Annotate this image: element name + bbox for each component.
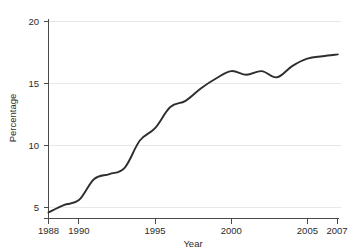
- y-tick-marks: [44, 22, 49, 208]
- x-tick-label-2000: 2000: [221, 225, 242, 236]
- x-tick-labels: 1988 1990 1995 2000 2005 2007: [38, 225, 348, 236]
- x-tick-marks: [49, 219, 338, 224]
- y-tick-label-5: 5: [34, 202, 39, 213]
- x-axis-title: Year: [183, 238, 202, 249]
- y-tick-labels: 20 15 10 5: [28, 16, 39, 213]
- x-tick-label-1988: 1988: [38, 225, 59, 236]
- line-chart-canvas: 20 15 10 5 1988 1990 1995 2000 2005 2007…: [0, 0, 360, 251]
- chart-figure: 20 15 10 5 1988 1990 1995 2000 2005 2007…: [0, 0, 360, 251]
- x-tick-label-2007: 2007: [326, 225, 347, 236]
- x-tick-label-2005: 2005: [297, 225, 318, 236]
- x-tick-label-1995: 1995: [145, 225, 166, 236]
- x-tick-label-1990: 1990: [68, 225, 89, 236]
- y-tick-label-20: 20: [28, 16, 39, 27]
- y-tick-label-15: 15: [28, 78, 39, 89]
- y-axis-title: Percentage: [7, 94, 18, 143]
- series-line-percentage: [49, 54, 338, 212]
- y-tick-label-10: 10: [28, 140, 39, 151]
